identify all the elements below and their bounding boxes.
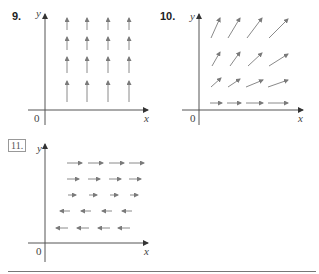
vector-arrows [210,18,288,103]
figure-10: 10. y x 0 [160,0,319,130]
figure-9: 9. y x 0 [0,0,160,130]
y-axis-label: y [35,7,41,19]
axes [182,14,303,125]
x-axis-label: x [143,112,149,124]
vector-field-plot: y x 0 [0,0,160,130]
x-axis-label: x [143,245,149,257]
figure-11: 11. y x 0 [0,130,180,274]
origin-label: 0 [190,112,196,124]
y-axis-label: y [189,10,195,22]
vector-arrows [56,163,144,228]
origin-label: 0 [34,112,40,124]
y-axis-label: y [36,142,42,154]
vector-arrows [67,18,129,102]
axes [28,14,148,125]
bottom-rule-divider [8,271,316,272]
x-axis-label: x [297,112,303,124]
origin-label: 0 [36,245,42,257]
axes [28,144,148,262]
vector-field-plot: y x 0 [160,0,319,130]
vector-field-plot: y x 0 [0,130,180,274]
